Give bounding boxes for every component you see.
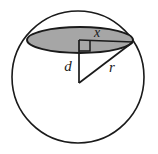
sphere-cross-section-diagram: x d r	[0, 0, 158, 154]
label-d: d	[64, 58, 72, 74]
label-x: x	[93, 25, 101, 40]
label-r: r	[109, 59, 115, 75]
geometry-canvas: x d r	[0, 0, 158, 154]
